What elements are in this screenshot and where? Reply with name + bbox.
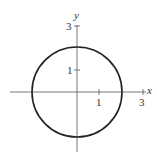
x-tick-label-3: 3 [139, 97, 145, 108]
x-tick-label-1: 1 [96, 97, 102, 108]
circle-plot [0, 0, 157, 155]
x-axis-label: x [147, 85, 152, 96]
y-axis-label: y [74, 10, 79, 21]
y-tick-label-1: 1 [67, 65, 73, 76]
y-tick-label-3: 3 [66, 21, 72, 32]
